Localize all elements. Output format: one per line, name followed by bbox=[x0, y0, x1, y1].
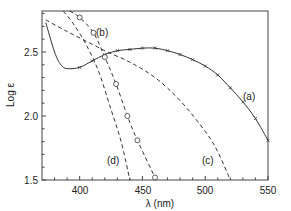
y-tick-1.5: 1.5 bbox=[24, 175, 38, 186]
curve-label-b: (b) bbox=[96, 27, 108, 38]
curve-a bbox=[46, 23, 268, 141]
curve-label-d: (d) bbox=[107, 155, 119, 166]
x-tick-550: 550 bbox=[260, 185, 277, 196]
y-tick-2.0: 2.0 bbox=[24, 111, 38, 122]
circle-marker bbox=[77, 15, 82, 20]
curves bbox=[46, 11, 270, 180]
x-tick-450: 450 bbox=[135, 185, 152, 196]
circle-marker bbox=[153, 175, 158, 180]
circle-marker bbox=[114, 81, 119, 86]
y-tick-2.5: 2.5 bbox=[24, 47, 38, 58]
x-tick-500: 500 bbox=[197, 185, 214, 196]
circle-marker bbox=[135, 138, 140, 143]
x-marker bbox=[254, 117, 257, 120]
y-axis-label: Log ε bbox=[5, 82, 16, 106]
x-axis-label: λ (nm) bbox=[146, 198, 174, 209]
spectrum-chart: 1.5 2.0 2.5 400 450 500 550 λ (nm) Log ε… bbox=[0, 0, 291, 211]
x-marker bbox=[216, 74, 219, 77]
x-marker bbox=[204, 65, 207, 68]
curve-b bbox=[70, 11, 155, 177]
curve-label-a: (a) bbox=[243, 91, 255, 102]
circle-marker bbox=[102, 55, 107, 60]
axis-ticks bbox=[42, 14, 268, 180]
curve-label-c: (c) bbox=[202, 155, 214, 166]
plot-frame bbox=[42, 11, 268, 180]
x-tick-400: 400 bbox=[72, 185, 89, 196]
circle-marker bbox=[125, 113, 130, 118]
x-marker bbox=[229, 86, 232, 89]
